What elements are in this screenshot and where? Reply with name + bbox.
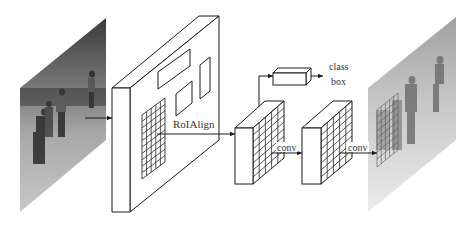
class-box-head bbox=[273, 68, 311, 85]
label-conv-1: conv bbox=[277, 142, 296, 153]
input-image bbox=[20, 18, 106, 212]
feature-map-block bbox=[112, 16, 219, 212]
mask-rcnn-diagram: RoIAlign class box conv bbox=[0, 0, 468, 227]
conv-feature-block bbox=[302, 101, 352, 184]
feature-map-front-face bbox=[112, 88, 130, 212]
output-image bbox=[368, 17, 456, 212]
label-class: class bbox=[329, 61, 349, 72]
label-conv-2: conv bbox=[348, 142, 367, 153]
label-box: box bbox=[331, 76, 346, 87]
label-roialign: RoIAlign bbox=[173, 118, 215, 130]
